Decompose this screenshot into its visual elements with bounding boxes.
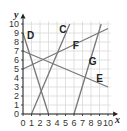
y-tick-label: 2 — [14, 91, 19, 101]
y-tick-label: 7 — [14, 46, 19, 56]
y-arrow-icon — [21, 14, 26, 19]
x-tick-label: 2 — [37, 118, 42, 128]
line-chart: xy 012345678910012345678910 CDEFG — [0, 0, 127, 131]
y-tick-label: 4 — [14, 73, 19, 83]
x-tick-label: 8 — [88, 118, 93, 128]
x-axis-label: x — [114, 114, 120, 125]
y-tick-label: 9 — [14, 28, 19, 38]
x-tick-label: 6 — [71, 118, 76, 128]
y-tick-label: 6 — [14, 55, 19, 65]
x-tick-label: 10 — [103, 118, 113, 128]
line-label-G: G — [89, 56, 97, 67]
x-tick-label: 4 — [54, 118, 59, 128]
line-label-E: E — [96, 73, 103, 84]
line-D — [23, 33, 49, 114]
line-label-C: C — [59, 24, 66, 35]
y-tick-label: 0 — [14, 109, 19, 119]
y-axis-label: y — [13, 9, 19, 20]
y-tick-label: 3 — [14, 82, 19, 92]
line-label-F: F — [73, 40, 79, 51]
x-tick-label: 5 — [63, 118, 68, 128]
y-tick-label: 5 — [14, 64, 19, 74]
x-tick-label: 0 — [20, 118, 25, 128]
x-tick-label: 9 — [97, 118, 102, 128]
y-tick-label: 8 — [14, 37, 19, 47]
y-tick-label: 1 — [14, 100, 19, 110]
x-tick-label: 1 — [29, 118, 34, 128]
x-tick-label: 3 — [46, 118, 51, 128]
y-tick-label: 10 — [9, 19, 19, 29]
x-tick-label: 7 — [80, 118, 85, 128]
line-label-D: D — [27, 30, 34, 41]
